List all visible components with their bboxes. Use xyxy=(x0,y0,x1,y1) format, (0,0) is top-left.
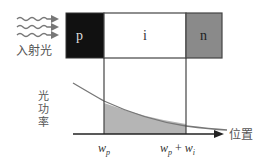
wpwi-tick-label: wp + wi xyxy=(160,141,195,157)
pin-diagram: 入射光 p i n 位置 光 功 率 wp wp + wi xyxy=(0,0,262,160)
absorbed-power-area xyxy=(104,103,186,134)
x-axis-arrow-icon xyxy=(214,130,224,138)
p-label: p xyxy=(76,28,83,43)
n-label: n xyxy=(200,28,207,43)
incident-light-label: 入射光 xyxy=(16,43,52,58)
svg-text:率: 率 xyxy=(38,115,49,129)
p-region xyxy=(66,13,104,58)
x-axis-label: 位置 xyxy=(229,127,253,142)
y-axis-label: 光 功 率 xyxy=(38,89,49,129)
svg-text:功: 功 xyxy=(38,103,49,116)
incident-light-icon xyxy=(17,18,54,37)
arrowheads-icon xyxy=(51,15,59,39)
svg-text:光: 光 xyxy=(38,89,49,103)
i-label: i xyxy=(143,28,147,43)
wp-tick-label: wp xyxy=(98,141,110,157)
